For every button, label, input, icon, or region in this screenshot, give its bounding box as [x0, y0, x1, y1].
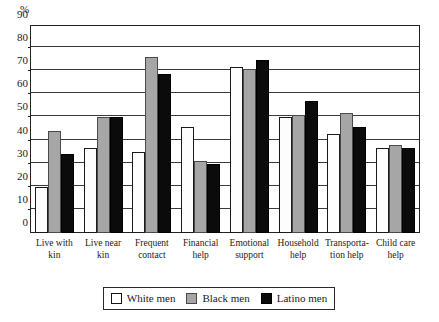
x-axis-labels: Live withkinLive nearkinFrequentcontactF… — [30, 237, 420, 273]
gridline-30 — [31, 162, 419, 163]
y-tick-label-80: 80 — [6, 32, 28, 43]
x-axis-label-line: help — [274, 249, 323, 261]
x-axis-label: Transporta-tion help — [323, 237, 372, 261]
x-axis-label-line: Transporta- — [323, 237, 372, 249]
gridline-50 — [31, 115, 419, 116]
y-tick-label-20: 20 — [6, 171, 28, 182]
legend-item: Black men — [186, 293, 249, 304]
x-axis-label: Householdhelp — [274, 237, 323, 261]
gridline-20 — [31, 185, 419, 186]
x-axis-label: Financialhelp — [176, 237, 225, 261]
x-axis-label-line: Frequent — [128, 237, 177, 249]
x-axis-label-line: help — [371, 249, 420, 261]
x-axis-label-line: Live with — [30, 237, 79, 249]
x-axis-label: Emotionalsupport — [225, 237, 274, 261]
bar-chart: % 9080706050403020100 Live withkinLive n… — [0, 0, 439, 322]
plot-area — [30, 25, 420, 233]
x-axis-label-line: Live near — [79, 237, 128, 249]
x-axis-label-line: tion help — [323, 249, 372, 261]
y-tick-label-90: 90 — [6, 9, 28, 20]
y-tick-label-60: 60 — [6, 78, 28, 89]
gridline-60 — [31, 92, 419, 93]
gridline-40 — [31, 139, 419, 140]
x-axis-label-line: Emotional — [225, 237, 274, 249]
x-axis-label: Live withkin — [30, 237, 79, 261]
legend-item: White men — [111, 293, 176, 304]
y-tick-label-10: 10 — [6, 194, 28, 205]
legend-label: Latino men — [277, 293, 327, 304]
x-axis-label-line: kin — [79, 249, 128, 261]
gridline-70 — [31, 69, 419, 70]
legend-label: White men — [127, 293, 176, 304]
y-tick-label-70: 70 — [6, 55, 28, 66]
y-axis-tick-column: 9080706050403020100 — [0, 25, 28, 233]
chart-legend: White menBlack menLatino men — [103, 287, 335, 310]
x-axis-label-line: Financial — [176, 237, 225, 249]
y-tick-label-40: 40 — [6, 125, 28, 136]
x-axis-label-line: kin — [30, 249, 79, 261]
x-axis-label-line: Child care — [371, 237, 420, 249]
x-axis-label-line: help — [176, 249, 225, 261]
x-axis-label: Frequentcontact — [128, 237, 177, 261]
x-axis-label-line: support — [225, 249, 274, 261]
x-axis-label: Live nearkin — [79, 237, 128, 261]
legend-item: Latino men — [261, 293, 327, 304]
y-tick-label-50: 50 — [6, 101, 28, 112]
y-tick-label-30: 30 — [6, 148, 28, 159]
gridline-80 — [31, 46, 419, 47]
gridline-10 — [31, 208, 419, 209]
y-tick-label-0: 0 — [6, 217, 28, 228]
x-axis-label-line: Household — [274, 237, 323, 249]
legend-swatch-icon — [111, 293, 122, 304]
legend-swatch-icon — [261, 293, 272, 304]
legend-label: Black men — [202, 293, 249, 304]
legend-swatch-icon — [186, 293, 197, 304]
x-axis-label: Child carehelp — [371, 237, 420, 261]
x-axis-label-line: contact — [128, 249, 177, 261]
